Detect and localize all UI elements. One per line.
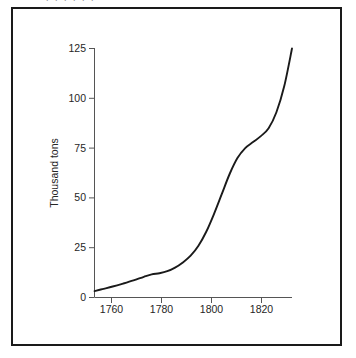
y-axis-title: Thousand tons [48,138,60,207]
y-axis-ticks [89,49,95,298]
x-tick-label-1820: 1820 [250,303,274,315]
chart-svg: 0 25 50 75 100 125 1760 1780 1800 1820 T… [0,0,356,358]
y-tick-label-50: 50 [74,191,86,203]
line-chart: 0 25 50 75 100 125 1760 1780 1800 1820 T… [0,0,356,358]
x-tick-label-1760: 1760 [100,303,124,315]
y-tick-label-75: 75 [74,142,86,154]
y-tick-label-25: 25 [74,241,86,253]
x-tick-label-1800: 1800 [200,303,224,315]
x-axis-tick-labels: 1760 1780 1800 1820 [100,303,274,315]
y-tick-label-100: 100 [68,92,86,104]
x-tick-label-1780: 1780 [150,303,174,315]
series-line-output [95,49,293,292]
y-axis-tick-labels: 0 25 50 75 100 125 [68,42,86,303]
x-axis-ticks [112,298,262,304]
y-tick-label-0: 0 [80,291,86,303]
y-tick-label-125: 125 [68,42,86,54]
